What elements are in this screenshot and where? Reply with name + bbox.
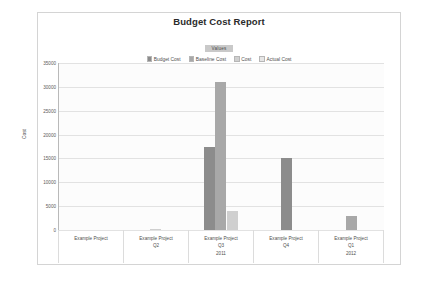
category-project-name: Example Project bbox=[334, 235, 367, 242]
legend-swatch-icon bbox=[147, 56, 153, 62]
bar[interactable] bbox=[215, 82, 226, 230]
legend-swatch-icon bbox=[234, 56, 240, 62]
category-project-name: Example Project bbox=[139, 235, 172, 242]
y-axis-tick-label: 0 bbox=[10, 228, 56, 233]
category-quarter-label: Q4 bbox=[283, 242, 289, 251]
legend-items: Budget CostBaseline CostCostActual Cost bbox=[37, 56, 401, 62]
bar[interactable] bbox=[227, 211, 238, 230]
legend-item-label: Cost bbox=[241, 57, 251, 62]
bar[interactable] bbox=[346, 216, 357, 230]
legend-item-actual-cost[interactable]: Actual Cost bbox=[259, 56, 291, 62]
plot-area bbox=[58, 63, 384, 230]
category-year-label: 2012 bbox=[346, 250, 356, 258]
y-axis-tick-label: 25000 bbox=[10, 108, 56, 113]
bar[interactable] bbox=[281, 158, 292, 230]
y-axis-tick-label: 35000 bbox=[10, 61, 56, 66]
x-axis-category-cell: Example ProjectQ4 bbox=[253, 230, 318, 263]
bar[interactable] bbox=[204, 147, 215, 231]
legend-swatch-icon bbox=[189, 56, 195, 62]
x-axis-category-cell: Example Project bbox=[58, 230, 123, 263]
bar-group bbox=[123, 63, 188, 230]
legend-swatch-icon bbox=[259, 56, 265, 62]
category-project-name: Example Project bbox=[204, 235, 237, 242]
category-project-name: Example Project bbox=[74, 235, 107, 242]
y-axis-tick-label: 5000 bbox=[10, 204, 56, 209]
bar-group bbox=[254, 63, 319, 230]
category-quarter-label: Q1 bbox=[348, 242, 354, 251]
y-axis-tick-label: 30000 bbox=[10, 84, 56, 89]
category-quarter-label: Q3 bbox=[218, 242, 224, 251]
y-axis-tick-label: 10000 bbox=[10, 180, 56, 185]
category-project-name: Example Project bbox=[269, 235, 302, 242]
legend-item-budget-cost[interactable]: Budget Cost bbox=[147, 56, 181, 62]
chart-title: Budget Cost Report bbox=[37, 16, 401, 27]
chart-legend: Values Budget CostBaseline CostCostActua… bbox=[37, 36, 401, 62]
category-year-label: 2011 bbox=[216, 250, 226, 258]
x-axis-category-table: Example ProjectExample ProjectQ2Example … bbox=[58, 230, 384, 263]
x-axis-category-cell: Example ProjectQ12012 bbox=[318, 230, 384, 263]
x-axis-category-cell: Example ProjectQ2 bbox=[123, 230, 188, 263]
bar-group bbox=[58, 63, 123, 230]
y-axis-tick-label: 15000 bbox=[10, 156, 56, 161]
legend-item-baseline-cost[interactable]: Baseline Cost bbox=[189, 56, 226, 62]
legend-item-label: Budget Cost bbox=[154, 57, 181, 62]
x-axis-category-cell: Example ProjectQ32011 bbox=[188, 230, 253, 263]
legend-header-values: Values bbox=[205, 45, 234, 52]
bar-group bbox=[319, 63, 384, 230]
category-quarter-label: Q2 bbox=[153, 242, 159, 251]
y-axis-tick-label: 20000 bbox=[10, 132, 56, 137]
bar-group bbox=[188, 63, 253, 230]
legend-item-label: Actual Cost bbox=[266, 57, 291, 62]
legend-item-cost[interactable]: Cost bbox=[234, 56, 251, 62]
legend-item-label: Baseline Cost bbox=[196, 57, 226, 62]
